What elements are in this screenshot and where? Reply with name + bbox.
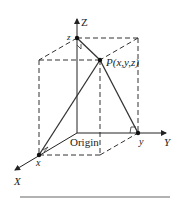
y-axis-label: Y: [164, 136, 172, 148]
p-point-label: P(x,y,z): [105, 56, 139, 69]
z-axis-label: Z: [81, 16, 88, 28]
x-axis-label: X: [13, 175, 22, 187]
point-p: [98, 58, 102, 62]
x-axis: [15, 133, 77, 170]
point-z: [75, 36, 79, 40]
point-y: [136, 131, 140, 135]
coordinate-diagram: Z z P(x,y,z) Origin y Y x X: [0, 0, 181, 201]
z-point-label: z: [66, 32, 71, 42]
y-point-label: y: [138, 136, 144, 147]
origin-label: Origin: [70, 136, 99, 148]
x-point-label: x: [35, 157, 41, 168]
